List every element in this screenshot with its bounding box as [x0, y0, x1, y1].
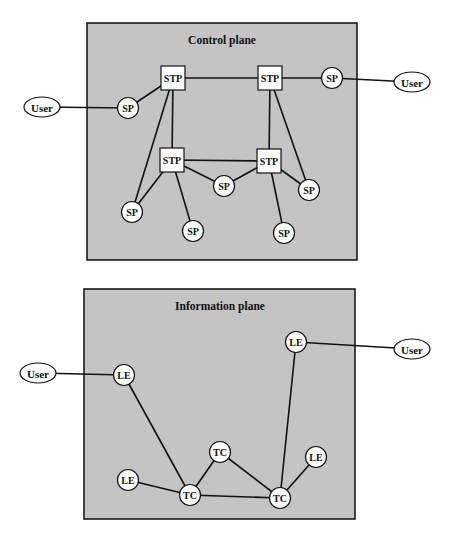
node-tc: TC [180, 485, 201, 506]
node-label: TC [273, 493, 287, 504]
node-sp: SP [274, 223, 295, 244]
node-le: LE [286, 332, 307, 353]
node-label: User [401, 77, 423, 89]
information-plane: Information plane LELELELETCTCTCUserUser [20, 289, 430, 519]
network-planes-diagram: Control plane STPSTPSTPSTPSPSPSPSPSPSPSP… [0, 0, 450, 550]
node-label: SP [326, 73, 338, 84]
node-sp: SP [299, 180, 320, 201]
node-label: User [31, 102, 53, 114]
node-label: LE [117, 370, 131, 381]
node-label: STP [261, 73, 279, 84]
node-le: LE [114, 365, 135, 386]
information-plane-title: Information plane [175, 300, 265, 313]
link-stp3-stp4 [172, 160, 269, 161]
node-user: User [20, 363, 56, 383]
control-plane-box [87, 23, 357, 260]
node-label: STP [260, 156, 278, 167]
node-label: STP [163, 155, 181, 166]
control-plane: Control plane STPSTPSTPSTPSPSPSPSPSPSPSP… [24, 23, 430, 260]
node-label: SP [187, 226, 199, 237]
node-sp: SP [322, 68, 343, 89]
node-tc: TC [270, 488, 291, 509]
control-plane-title: Control plane [188, 34, 256, 47]
node-label: SP [126, 207, 138, 218]
node-stp: STP [161, 66, 185, 90]
node-user: User [394, 72, 430, 92]
node-label: SP [122, 103, 134, 114]
node-label: TC [213, 447, 227, 458]
node-tc: TC [210, 442, 231, 463]
node-le: LE [306, 447, 327, 468]
node-sp: SP [214, 176, 235, 197]
node-label: SP [278, 228, 290, 239]
node-sp: SP [122, 202, 143, 223]
node-user: User [394, 339, 430, 359]
node-label: TC [183, 490, 197, 501]
node-label: User [401, 344, 423, 356]
node-label: SP [218, 181, 230, 192]
node-label: User [27, 368, 49, 380]
node-sp: SP [118, 98, 139, 119]
node-le: LE [118, 470, 139, 491]
node-label: LE [309, 452, 323, 463]
node-label: LE [289, 337, 303, 348]
node-label: LE [121, 475, 135, 486]
node-label: SP [303, 185, 315, 196]
node-stp: STP [257, 149, 281, 173]
node-user: User [24, 97, 60, 117]
node-label: STP [164, 73, 182, 84]
node-stp: STP [160, 148, 184, 172]
node-stp: STP [258, 66, 282, 90]
node-sp: SP [183, 221, 204, 242]
